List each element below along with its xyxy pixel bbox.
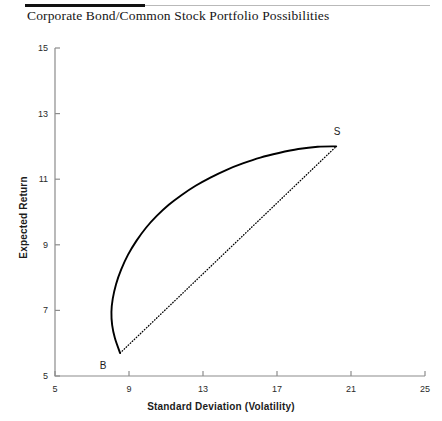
y-axis-tick-label: 9 [26,240,48,250]
plot-area [0,0,442,421]
series-curve-solid [111,146,336,353]
y-axis-tick-marks [55,48,60,376]
data-series-layer [111,146,336,353]
axis-spine [55,48,425,376]
x-axis-title: Standard Deviation (Volatility) [0,401,442,412]
chart-figure: Corporate Bond/Common Stock Portfolio Po… [0,0,442,421]
y-axis-tick-label: 15 [26,43,48,53]
y-axis-title: Expected Return [18,148,29,288]
x-axis-tick-label: 9 [126,384,131,394]
series-line-dotted [120,146,336,353]
x-axis-tick-label: 25 [420,384,430,394]
x-axis-tick-label: 17 [272,384,282,394]
x-axis-tick-label: 13 [198,384,208,394]
x-axis-tick-label: 21 [346,384,356,394]
point-label-b: B [100,360,107,371]
x-axis-tick-label: 5 [52,384,57,394]
y-axis-tick-label: 11 [26,174,48,184]
point-label-s: S [334,126,341,137]
x-axis-tick-marks [55,371,425,376]
y-axis-tick-label: 7 [26,305,48,315]
y-axis-tick-label: 5 [26,371,48,381]
y-axis-tick-label: 13 [26,109,48,119]
